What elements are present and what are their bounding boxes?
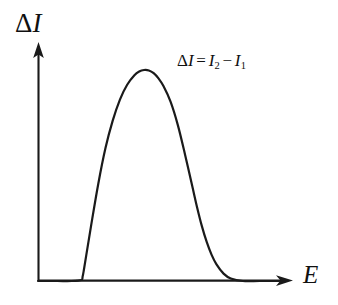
figure-canvas: ΔI E ΔI=I2−I1 xyxy=(0,0,338,305)
equation-lhs-symbol: I xyxy=(188,51,194,70)
equation-lhs-delta: Δ xyxy=(177,51,188,70)
equation-term2-subscript: 1 xyxy=(240,60,245,71)
y-axis-label-symbol: I xyxy=(32,8,41,38)
peak-curve xyxy=(38,70,279,281)
x-axis-label: E xyxy=(303,262,318,287)
equation-term1-subscript: 2 xyxy=(214,60,219,71)
equation-minus-sign: − xyxy=(220,51,235,70)
peak-plot-svg xyxy=(0,0,338,305)
equation-annotation: ΔI=I2−I1 xyxy=(177,52,246,72)
y-axis-label-delta: Δ xyxy=(15,8,32,38)
y-axis-label: ΔI xyxy=(15,10,41,37)
equation-equals-sign: = xyxy=(194,51,209,70)
